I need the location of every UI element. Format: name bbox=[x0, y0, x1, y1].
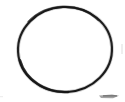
circle-outline-figure bbox=[0, 0, 125, 102]
image-canvas: circle outline bbox=[0, 0, 125, 102]
